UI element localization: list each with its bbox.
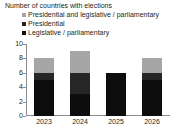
- legend-swatch-icon: [22, 22, 26, 26]
- bar-segment: [34, 73, 54, 80]
- y-axis-tick-label: 8: [8, 54, 23, 61]
- chart-legend: Presidential and legislative / parliamen…: [22, 11, 159, 38]
- x-axis-tick-label: 2026: [134, 118, 170, 126]
- y-axis-tick-mark: [23, 116, 26, 117]
- bar-stack: [70, 51, 90, 116]
- legend-swatch-icon: [22, 31, 26, 35]
- legend-item-presidential: Presidential: [22, 20, 159, 28]
- bar-series-group: [26, 44, 170, 116]
- bar-stack: [34, 58, 54, 116]
- bar-stack: [142, 58, 162, 116]
- plot-area: [26, 44, 170, 116]
- bar-segment: [142, 80, 162, 116]
- x-axis-tick-label: 2025: [98, 118, 134, 126]
- y-axis-tick-label: 0: [8, 112, 23, 119]
- bar-stack: [106, 73, 126, 116]
- y-axis-tick-label: 6: [8, 69, 23, 76]
- chart-container: Number of countries with elections Presi…: [0, 0, 173, 132]
- bar-segment: [106, 73, 126, 116]
- bar-segment: [34, 58, 54, 72]
- y-axis-tick-label: 10: [8, 40, 23, 47]
- x-axis-tick-label: 2024: [62, 118, 98, 126]
- chart-title: Number of countries with elections: [5, 2, 112, 10]
- x-axis-tick-label: 2023: [26, 118, 62, 126]
- legend-item-label: Legislative / parliamentary: [28, 29, 109, 37]
- y-axis-tick-label: 4: [8, 83, 23, 90]
- bar-segment: [70, 94, 90, 116]
- bar-segment: [70, 51, 90, 73]
- legend-item-label: Presidential and legislative / parliamen…: [28, 11, 159, 19]
- y-axis-tick-label: 2: [8, 98, 23, 105]
- bar-segment: [34, 80, 54, 116]
- bar-segment: [70, 73, 90, 95]
- legend-item-presidential-and-legislative: Presidential and legislative / parliamen…: [22, 11, 159, 19]
- bar-segment: [142, 58, 162, 72]
- legend-item-label: Presidential: [28, 20, 65, 28]
- legend-swatch-icon: [22, 13, 26, 17]
- bar-segment: [142, 73, 162, 80]
- legend-item-legislative: Legislative / parliamentary: [22, 29, 159, 37]
